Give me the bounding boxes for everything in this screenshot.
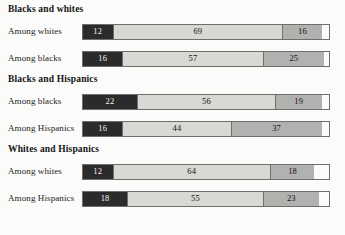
bar-segment-3: 18: [270, 165, 314, 179]
group-title: Blacks and Hispanics: [6, 73, 330, 86]
chart-row: Among blacks 22 56 19: [6, 88, 330, 115]
group-title: Whites and Hispanics: [6, 143, 330, 156]
chart-row: Among whites 12 64 18: [6, 158, 330, 185]
bar-segment-2: 57: [122, 52, 262, 66]
bar-segment-3: 16: [282, 25, 321, 39]
row-label: Among Hispanics: [6, 123, 82, 134]
row-label: Among whites: [6, 26, 82, 37]
bar-segment-2: 64: [113, 165, 270, 179]
chart-row: Among blacks 16 57 25: [6, 45, 330, 72]
stacked-bar: 12 64 18: [82, 164, 330, 180]
group-title: Blacks and whites: [6, 3, 330, 16]
chart-row: Among Hispanics 18 55 23: [6, 185, 330, 212]
bar-segment-2: 56: [137, 95, 275, 109]
bar-segment-1: 16: [83, 122, 122, 136]
stacked-bar: 16 57 25: [82, 51, 330, 67]
bar-segment-3: 23: [263, 192, 320, 206]
bar-segment-1: 22: [83, 95, 137, 109]
bar-segment-1: 12: [83, 165, 113, 179]
row-label: Among blacks: [6, 96, 82, 107]
bar-segment-1: 12: [83, 25, 113, 39]
chart-group: Whites and Hispanics Among whites 12 64 …: [6, 143, 330, 212]
bar-segment-1: 18: [83, 192, 127, 206]
bar-segment-2: 69: [113, 25, 283, 39]
bar-segment-3: 25: [263, 52, 325, 66]
chart-row: Among whites 12 69 16: [6, 18, 330, 45]
stacked-bar-chart: Blacks and whites Among whites 12 69 16 …: [0, 0, 345, 235]
chart-group: Blacks and whites Among whites 12 69 16 …: [6, 3, 330, 72]
stacked-bar: 22 56 19: [82, 94, 330, 110]
bar-segment-1: 16: [83, 52, 122, 66]
chart-row: Among Hispanics 16 44 37: [6, 115, 330, 142]
bar-segment-3: 37: [231, 122, 322, 136]
bar-segment-2: 55: [127, 192, 262, 206]
row-label: Among Hispanics: [6, 193, 82, 204]
row-label: Among whites: [6, 166, 82, 177]
bar-segment-3: 19: [275, 95, 322, 109]
bar-segment-2: 44: [122, 122, 230, 136]
stacked-bar: 16 44 37: [82, 121, 330, 137]
stacked-bar: 12 69 16: [82, 24, 330, 40]
stacked-bar: 18 55 23: [82, 191, 330, 207]
chart-group: Blacks and Hispanics Among blacks 22 56 …: [6, 73, 330, 142]
row-label: Among blacks: [6, 53, 82, 64]
